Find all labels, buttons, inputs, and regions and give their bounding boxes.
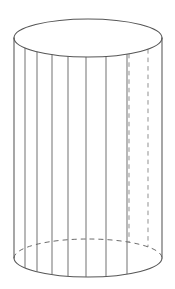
- cylinder-diagram-svg: Cylinder with vertical ruling lines: [0, 0, 175, 289]
- cylinder-lateral-surface-fill: [14, 19, 162, 277]
- cylinder-body-group: [14, 19, 162, 277]
- cylinder-figure: Cylinder with vertical ruling lines: [0, 0, 175, 289]
